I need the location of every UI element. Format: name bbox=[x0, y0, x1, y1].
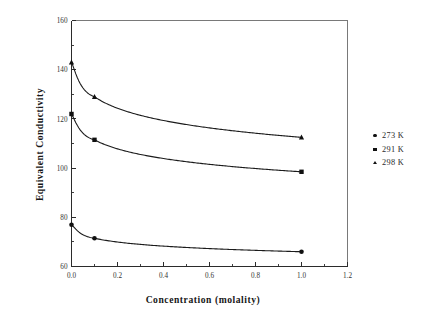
circle-marker-icon bbox=[368, 134, 382, 137]
triangle-marker-icon bbox=[368, 161, 382, 164]
x-axis-title: Concentration (molality) bbox=[0, 294, 406, 305]
plot-frame bbox=[72, 21, 348, 267]
legend-label: 291 K bbox=[382, 145, 404, 154]
x-axis-ticks bbox=[72, 262, 348, 267]
svg-text:160: 160 bbox=[57, 17, 68, 25]
svg-text:100: 100 bbox=[57, 165, 68, 173]
svg-text:0.2: 0.2 bbox=[113, 272, 122, 280]
chart-legend: 273 K 291 K 298 K bbox=[368, 129, 432, 170]
svg-text:1.0: 1.0 bbox=[297, 272, 306, 280]
svg-text:60: 60 bbox=[60, 263, 68, 271]
svg-text:1.2: 1.2 bbox=[343, 272, 352, 280]
y-axis-tick-labels: 6080100120140160 bbox=[57, 17, 68, 271]
legend-item-298k[interactable]: 298 K bbox=[368, 156, 432, 170]
legend-item-291k[interactable]: 291 K bbox=[368, 143, 432, 157]
svg-text:80: 80 bbox=[60, 214, 68, 222]
svg-text:0.6: 0.6 bbox=[205, 272, 214, 280]
legend-item-273k[interactable]: 273 K bbox=[368, 129, 432, 143]
x-axis-tick-labels: 0.00.20.40.60.81.01.2 bbox=[67, 272, 352, 280]
svg-text:0.4: 0.4 bbox=[159, 272, 168, 280]
svg-text:120: 120 bbox=[57, 116, 68, 124]
data-point-markers bbox=[69, 60, 304, 255]
legend-label: 273 K bbox=[382, 131, 404, 140]
svg-text:140: 140 bbox=[57, 66, 68, 74]
y-axis-ticks bbox=[72, 21, 77, 267]
legend-label: 298 K bbox=[382, 158, 404, 167]
svg-text:0.0: 0.0 bbox=[67, 272, 76, 280]
square-marker-icon bbox=[368, 148, 382, 151]
y-axis-title: Equivalent Conductivity bbox=[34, 45, 45, 245]
chart-figure: 6080100120140160 0.00.20.40.60.81.01.2 C… bbox=[0, 0, 435, 321]
data-series-lines bbox=[72, 62, 302, 251]
svg-text:0.8: 0.8 bbox=[251, 272, 260, 280]
